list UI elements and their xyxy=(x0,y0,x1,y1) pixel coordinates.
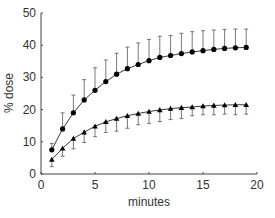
x-axis-ticks: 05101520 xyxy=(38,172,264,192)
y-tick-label: 50 xyxy=(23,6,37,20)
circle-marker xyxy=(146,58,151,63)
circle-marker xyxy=(114,72,119,77)
circle-marker xyxy=(71,110,76,115)
circle-marker xyxy=(233,45,238,50)
chart: 05101520 01020304050 minutes % dose xyxy=(0,0,275,218)
y-axis-title: % dose xyxy=(2,73,16,113)
triangle-marker xyxy=(92,124,98,129)
y-axis-ticks: 01020304050 xyxy=(23,6,43,181)
circle-marker xyxy=(211,47,216,52)
circle-marker xyxy=(200,48,205,53)
x-tick-label: 5 xyxy=(92,178,99,192)
y-tick-label: 30 xyxy=(23,70,37,84)
x-tick-label: 15 xyxy=(196,178,210,192)
x-tick-label: 10 xyxy=(142,178,156,192)
x-tick-label: 0 xyxy=(38,178,45,192)
circle-marker xyxy=(136,62,141,67)
circle-marker xyxy=(60,126,65,131)
series-triangles xyxy=(49,102,249,167)
circle-marker xyxy=(125,66,130,71)
y-tick-label: 0 xyxy=(29,167,36,181)
x-axis-title: minutes xyxy=(128,195,170,209)
y-tick-label: 10 xyxy=(23,135,37,149)
y-tick-label: 40 xyxy=(23,38,37,52)
triangle-marker xyxy=(71,136,77,141)
circle-marker xyxy=(244,45,249,50)
series-circles xyxy=(49,29,249,152)
circle-marker xyxy=(168,53,173,58)
circle-marker xyxy=(92,88,97,93)
plot-area xyxy=(49,29,249,166)
circle-marker xyxy=(222,46,227,51)
triangle-marker xyxy=(81,129,87,134)
circle-marker xyxy=(179,51,184,56)
circle-marker xyxy=(190,49,195,54)
y-tick-label: 20 xyxy=(23,103,37,117)
circle-marker xyxy=(82,97,87,102)
circle-marker xyxy=(157,55,162,60)
x-tick-label: 20 xyxy=(250,178,264,192)
circle-marker xyxy=(49,147,54,152)
circle-marker xyxy=(103,79,108,84)
